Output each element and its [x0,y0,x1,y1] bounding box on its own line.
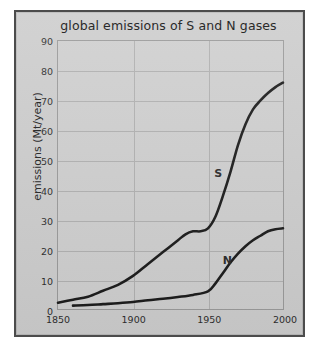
figure-frame: global emissions of S and N gases emissi… [14,10,305,337]
y-tick-label: 20 [41,246,53,257]
chart-title: global emissions of S and N gases [16,18,303,33]
y-tick-label: 30 [41,216,53,227]
plot-area: 0102030405060708090 1850190019502000 SN [57,40,284,310]
x-tick-label: 1850 [46,314,70,325]
y-tick-label: 90 [41,36,53,47]
x-tick-label: 1950 [197,314,221,325]
y-tick-label: 10 [41,276,53,287]
y-axis-label: emissions (Mt/year) [31,82,44,212]
series-label-n: N [223,254,233,267]
series-line-s [58,83,283,303]
series-layer [58,41,283,309]
x-tick-label: 2000 [273,314,297,325]
series-label-s: S [214,167,222,180]
x-tick-label: 1900 [122,314,146,325]
y-tick-label: 80 [41,66,53,77]
